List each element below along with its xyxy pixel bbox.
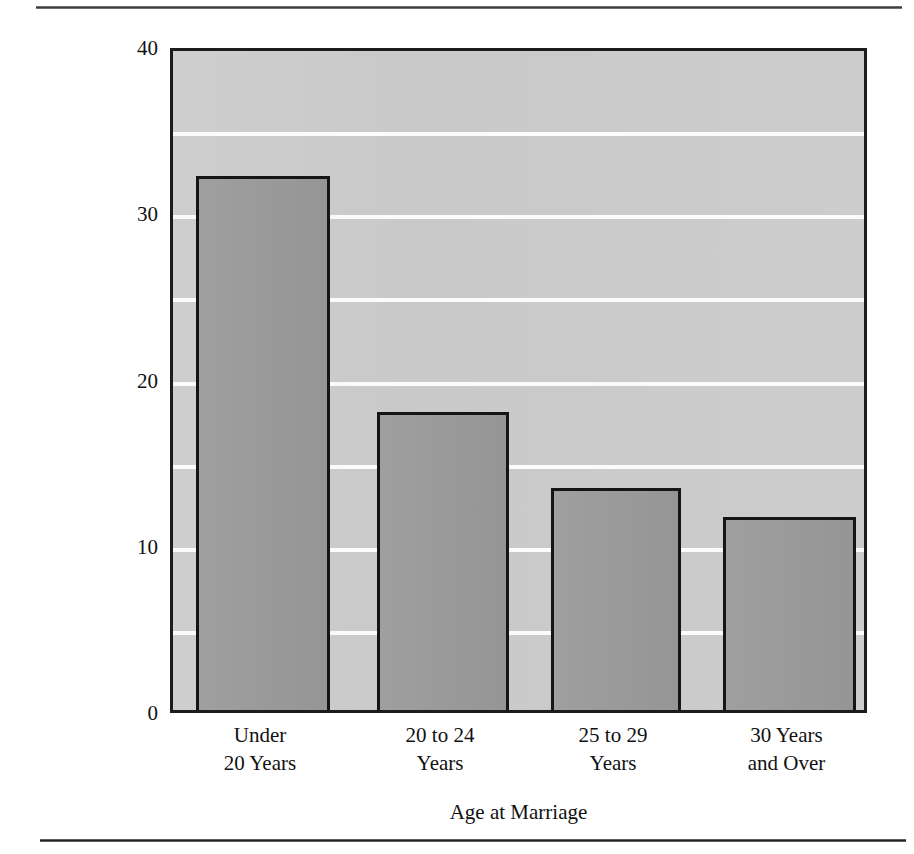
gridline — [173, 132, 864, 136]
bar — [551, 488, 681, 713]
y-tick-label: 10 — [102, 534, 158, 559]
y-axis-tick-labels: 010203040 — [90, 0, 158, 854]
x-axis-title: Age at Marriage — [170, 800, 867, 825]
y-axis-title: Percent of U.S. Women Divorced — [0, 0, 34, 145]
bar-fill-texture — [554, 491, 678, 713]
y-tick-label: 40 — [102, 36, 158, 61]
y-tick-label: 30 — [102, 202, 158, 227]
x-tick-label-line: 20 to 24 — [340, 722, 540, 750]
bar-fill-texture — [726, 520, 853, 714]
bar — [377, 412, 509, 713]
x-axis-tick-labels: Under20 Years20 to 24Years25 to 29Years3… — [170, 722, 867, 802]
x-tick-label-line: Years — [340, 750, 540, 778]
x-tick-label-line: 30 Years — [687, 722, 887, 750]
bottom-horizontal-rule — [40, 839, 906, 842]
y-tick-label: 0 — [102, 701, 158, 726]
x-tick-label: 30 Yearsand Over — [687, 722, 887, 777]
x-tick-label: 25 to 29Years — [513, 722, 713, 777]
x-tick-label: 20 to 24Years — [340, 722, 540, 777]
bar-fill-texture — [380, 415, 506, 713]
bar-chart-figure: Percent of U.S. Women Divorced 010203040… — [0, 0, 914, 854]
bar-fill-texture — [199, 179, 327, 713]
x-tick-label-line: 25 to 29 — [513, 722, 713, 750]
y-tick-label: 20 — [102, 368, 158, 393]
x-tick-label: Under20 Years — [160, 722, 360, 777]
top-horizontal-rule — [36, 6, 902, 9]
x-tick-label-line: Years — [513, 750, 713, 778]
x-tick-label-line: and Over — [687, 750, 887, 778]
plot-area — [170, 48, 867, 713]
x-tick-label-line: Under — [160, 722, 360, 750]
bar — [723, 517, 856, 714]
x-tick-label-line: 20 Years — [160, 750, 360, 778]
bar — [196, 176, 330, 713]
